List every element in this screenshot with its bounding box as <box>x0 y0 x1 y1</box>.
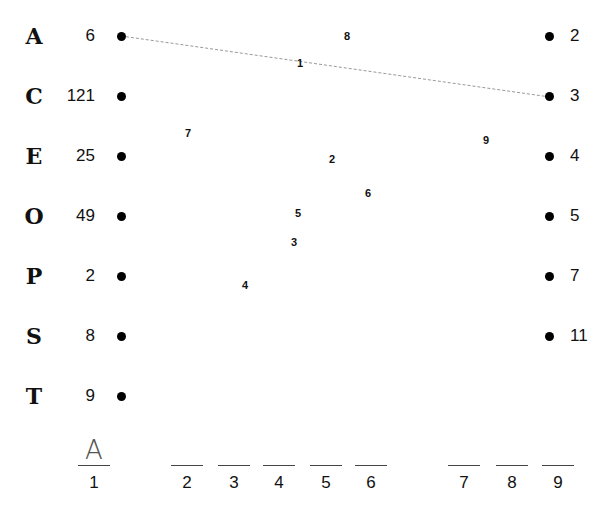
slot-number: 1 <box>78 473 110 493</box>
right-connector-dot[interactable] <box>545 32 554 41</box>
floating-number[interactable]: 6 <box>365 187 371 199</box>
slot-underline <box>355 465 387 466</box>
left-connector-dot[interactable] <box>117 32 126 41</box>
left-letter: T <box>22 383 46 408</box>
left-letter: P <box>22 263 46 288</box>
floating-number[interactable]: 3 <box>291 236 297 248</box>
slot-number: 8 <box>496 473 528 493</box>
right-connector-dot[interactable] <box>545 212 554 221</box>
slot-number: 6 <box>355 473 387 493</box>
right-value: 7 <box>570 266 579 286</box>
right-value: 3 <box>570 86 579 106</box>
right-value: 2 <box>570 26 579 46</box>
slot-underline <box>263 465 295 466</box>
right-value: 11 <box>570 326 588 346</box>
right-connector-dot[interactable] <box>545 152 554 161</box>
left-letter: A <box>22 23 46 48</box>
left-connector-dot[interactable] <box>117 332 126 341</box>
slot-number: 3 <box>218 473 250 493</box>
slot-number: 4 <box>263 473 295 493</box>
left-value: 8 <box>55 326 95 346</box>
right-connector-dot[interactable] <box>545 92 554 101</box>
left-letter: C <box>22 83 46 108</box>
left-value: 9 <box>55 386 95 406</box>
slot-underline <box>448 465 480 466</box>
floating-number[interactable]: 9 <box>483 134 489 146</box>
left-value: 6 <box>55 26 95 46</box>
slot-underline <box>78 465 110 466</box>
right-connector-dot[interactable] <box>545 332 554 341</box>
slot-answer[interactable]: A <box>78 435 110 465</box>
slot-underline <box>310 465 342 466</box>
slot-underline <box>218 465 250 466</box>
left-connector-dot[interactable] <box>117 92 126 101</box>
left-letter: S <box>22 323 46 348</box>
slot-number: 7 <box>448 473 480 493</box>
floating-number[interactable]: 7 <box>185 127 191 139</box>
left-value: 2 <box>55 266 95 286</box>
left-connector-dot[interactable] <box>117 392 126 401</box>
slot-number: 5 <box>310 473 342 493</box>
floating-number[interactable]: 2 <box>329 153 335 165</box>
left-connector-dot[interactable] <box>117 272 126 281</box>
slot-number: 2 <box>171 473 203 493</box>
left-value: 25 <box>55 146 95 166</box>
slot-underline <box>496 465 528 466</box>
slot-underline <box>542 465 574 466</box>
slot-number: 9 <box>542 473 574 493</box>
floating-number[interactable]: 4 <box>242 279 248 291</box>
left-letter: O <box>22 203 46 228</box>
right-connector-dot[interactable] <box>545 272 554 281</box>
left-letter: E <box>22 143 46 168</box>
right-value: 4 <box>570 146 579 166</box>
floating-number[interactable]: 1 <box>297 57 303 69</box>
right-value: 5 <box>570 206 579 226</box>
slot-underline <box>171 465 203 466</box>
left-connector-dot[interactable] <box>117 212 126 221</box>
floating-number[interactable]: 8 <box>344 30 350 42</box>
floating-number[interactable]: 5 <box>295 207 301 219</box>
left-value: 49 <box>55 206 95 226</box>
left-value: 121 <box>55 86 95 106</box>
left-connector-dot[interactable] <box>117 152 126 161</box>
